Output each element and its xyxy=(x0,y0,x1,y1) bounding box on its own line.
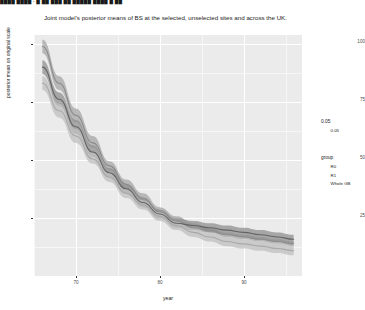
legend-group-swatch-r1 xyxy=(321,172,329,180)
legend-group-label-r1: R1 xyxy=(331,173,337,179)
x-tick-label-90: 90 xyxy=(234,280,254,285)
y-tick-label-100: 100 xyxy=(339,39,365,44)
legend-alpha-title: 0.05 xyxy=(321,119,339,125)
legend-group-item-2[interactable]: Whole GB xyxy=(321,180,351,188)
y-axis-title: posterior mean on original scale xyxy=(5,27,11,98)
legend-group-item-1[interactable]: R1 xyxy=(321,172,351,180)
legend-group-swatch-whole-gb xyxy=(321,180,329,188)
x-tick-mark-90 xyxy=(244,276,245,278)
page-title: Joint model's posterior means of BS at t… xyxy=(44,14,334,22)
legend-alpha-swatch-0 xyxy=(321,127,329,135)
legend-group: group R0 R1 Whole GB xyxy=(321,155,351,189)
y-tick-mark-50 xyxy=(31,160,33,161)
y-tick-mark-100 xyxy=(31,44,33,45)
plot-panel xyxy=(34,35,302,276)
legend-group-title: group xyxy=(321,155,351,161)
y-tick-label-25: 25 xyxy=(339,213,365,218)
series-lines xyxy=(42,46,293,250)
legend-alpha-label-0: 0.05 xyxy=(331,128,340,134)
legend-group-label-whole-gb: Whole GB xyxy=(331,181,351,187)
series-ribbons xyxy=(42,40,293,256)
legend-group-label-r0: R0 xyxy=(331,164,337,170)
y-tick-label-75: 75 xyxy=(339,97,365,102)
x-axis-title: year xyxy=(34,295,302,301)
x-tick-mark-80 xyxy=(160,276,161,278)
x-tick-label-80: 80 xyxy=(150,280,170,285)
x-tick-mark-70 xyxy=(76,276,77,278)
legend-group-swatch-r0 xyxy=(321,163,329,171)
series-line-2 xyxy=(42,83,293,251)
x-tick-label-70: 70 xyxy=(66,280,86,285)
y-tick-mark-75 xyxy=(31,102,33,103)
chart-figure: Joint model's posterior means of BS at t… xyxy=(0,6,365,310)
top-strip-text: ████ ████ ∙ █ ██ ███ ██ █████ ████ █ ██ xyxy=(0,0,365,4)
series-ribbon-2 xyxy=(42,76,293,255)
curve-layer xyxy=(34,35,302,276)
legend-group-item-0[interactable]: R0 xyxy=(321,163,351,171)
legend-alpha-item-0[interactable]: 0.05 xyxy=(321,127,339,135)
legend-alpha: 0.05 0.05 xyxy=(321,119,339,136)
y-tick-mark-25 xyxy=(31,218,33,219)
